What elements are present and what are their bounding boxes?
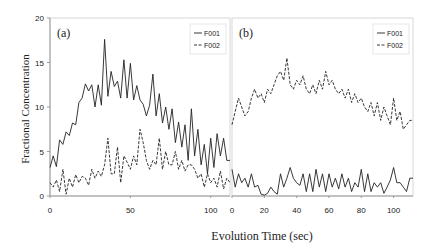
legend-entry: F001 [204,30,220,37]
x-tick-label: 60 [325,206,334,215]
panel-label: (a) [57,26,70,40]
x-tick-label: 20 [260,206,269,215]
y-tick-label: 10 [35,103,44,112]
panel-label: (b) [239,26,253,40]
x-tick-label: 0 [48,206,53,215]
x-axis-label: Evolution Time (sec) [211,229,312,243]
x-tick-label: 100 [204,206,218,215]
y-tick-label: 0 [40,192,45,201]
y-tick-label: 15 [35,59,44,68]
x-tick-label: 40 [292,206,301,215]
series-f001 [232,168,413,196]
x-tick-label: 0 [230,206,235,215]
legend-entry: F001 [387,30,403,37]
y-axis-label: Fractional Concentration [19,54,31,164]
legend: F001F002 [190,24,226,54]
panel-b: 020406080100(b)F001F002 [230,18,413,215]
legend: F001F002 [373,24,409,54]
legend-entry: F002 [204,42,220,49]
series-f001 [50,39,230,173]
y-tick-label: 20 [35,14,44,23]
legend-entry: F002 [387,42,403,49]
y-tick-label: 5 [40,148,45,157]
series-f002 [232,58,413,129]
x-tick-label: 100 [387,206,401,215]
series-f002 [50,129,230,194]
x-tick-label: 80 [357,206,366,215]
x-tick-label: 50 [126,206,135,215]
figure: 05010005101520Fractional Concentration(a… [0,0,432,248]
panel-a: 05010005101520Fractional Concentration(a… [19,14,230,215]
